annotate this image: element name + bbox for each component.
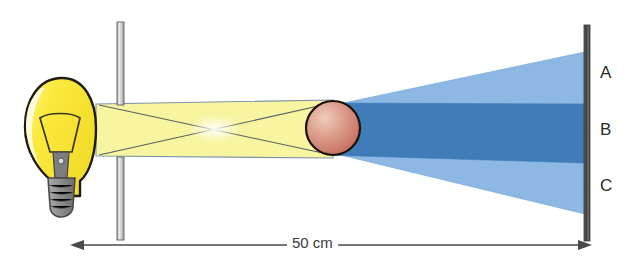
distance-value-label: 50 cm [287,234,338,251]
dimension-arrow-left [70,240,84,250]
screen-bar [584,25,590,241]
screen-label-c: C [600,177,612,194]
light-bulb [25,78,96,217]
sphere-object [306,101,360,155]
light-beam [96,100,333,158]
screen-label-b: B [600,121,612,138]
dimension-arrow-right [578,240,592,250]
barrier-lower-segment [117,157,124,240]
screen-label-a: A [600,64,612,81]
optics-diagram: A B C 50 cm [0,0,629,275]
projection-screen [584,25,590,241]
sphere-body [306,101,360,155]
barrier-upper-segment [117,22,124,105]
bulb-stem-bead [58,158,64,164]
umbra-region [326,103,585,163]
bulb-stem [53,152,69,178]
ray-crossing-highlight [189,115,241,143]
bulb-screw-base [48,178,75,217]
